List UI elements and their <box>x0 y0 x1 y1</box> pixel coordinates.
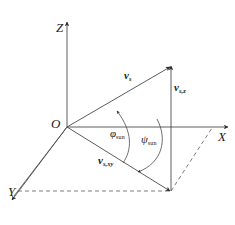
axis-y-label: Y <box>8 185 15 198</box>
origin-label: O <box>51 117 60 130</box>
elevation-angle-subscript: sun <box>116 134 125 140</box>
axis-x-label: X <box>218 130 226 143</box>
vector-decomposition-diagram <box>0 0 235 225</box>
elevation-angle-label: φsun <box>110 128 125 140</box>
axis-y-line <box>12 127 67 200</box>
axis-z-label: Z <box>56 21 63 34</box>
figure-container: Z X Y O vs vs,z vs,xy φsun ψsun <box>0 0 235 225</box>
ground-dashed-diagonal <box>171 128 212 191</box>
horizontal-projection-subscript: s,xy <box>103 160 114 167</box>
sun-vector-label: vs <box>124 70 132 83</box>
azimuth-angle-symbol: ψ <box>141 133 148 145</box>
vertical-component-subscript: s,z <box>179 87 186 94</box>
azimuth-angle-label: ψsun <box>141 134 156 146</box>
horizontal-projection-label: vs,xy <box>98 155 114 168</box>
azimuth-angle-subscript: sun <box>148 140 157 146</box>
vertical-component-label: vs,z <box>174 82 186 95</box>
sun-vector-arrow <box>67 67 170 127</box>
figure-caption <box>0 211 235 225</box>
sun-vector-subscript: s <box>129 75 132 82</box>
